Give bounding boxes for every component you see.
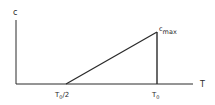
x-axis-label: T bbox=[199, 80, 205, 89]
diagram-canvas: c T cmax T0/2 T0 bbox=[0, 0, 215, 105]
peak-label-sub: max bbox=[163, 28, 177, 36]
ramp-line bbox=[66, 32, 157, 84]
tick-suffix: /2 bbox=[62, 91, 69, 99]
peak-label: cmax bbox=[159, 25, 177, 36]
tick-sub: 0 bbox=[156, 94, 159, 100]
tick-label-half-t0: T0/2 bbox=[54, 91, 69, 100]
tick-label-t0: T0 bbox=[151, 91, 159, 100]
y-axis-label: c bbox=[13, 8, 17, 17]
